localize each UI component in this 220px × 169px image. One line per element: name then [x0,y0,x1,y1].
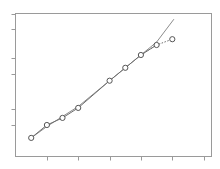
plot-frame [16,14,212,157]
data-point-marker [138,52,143,57]
fit-line [31,19,174,138]
data-point-marker [154,42,159,47]
data-point-marker [107,78,112,83]
data-point-marker [44,122,49,127]
data-point-marker [123,65,128,70]
data-point-marker [170,37,175,42]
y-axis-ticks [12,15,16,126]
x-axis-ticks [48,157,205,161]
data-point-marker [76,105,81,110]
data-markers [29,37,175,141]
data-point-marker [29,135,34,140]
line-chart [0,0,220,169]
data-point-marker [60,115,65,120]
data-line-solid [31,45,156,138]
